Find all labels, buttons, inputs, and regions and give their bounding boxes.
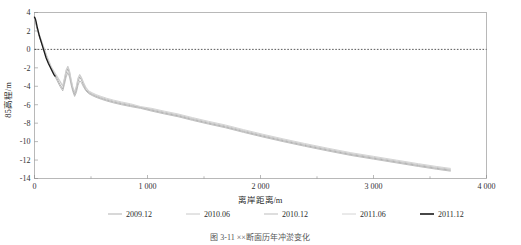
y-tick-label: -12 [20, 156, 31, 165]
y-axis-label: 85高程/m [3, 82, 13, 118]
figure-caption: 图 3-11 ××断面历年冲淤变化 [210, 232, 309, 242]
x-axis-label: 离岸距离/m [238, 195, 283, 205]
y-tick-label: -10 [20, 137, 31, 146]
y-tick-label: 0 [27, 45, 31, 54]
legend-label-2009-12: 2009.12 [126, 210, 152, 219]
y-tick-label: -4 [24, 82, 31, 91]
figure-container: 420-2-4-6-8-10-12-14 01 0002 0003 0004 0… [0, 0, 521, 245]
y-tick-label: 2 [27, 27, 31, 36]
y-tick-label: -14 [20, 174, 31, 183]
y-tick-label: 4 [27, 8, 31, 17]
x-tick-label: 4 000 [478, 182, 496, 191]
figure-background [0, 0, 521, 245]
legend-label-2011-12: 2011.12 [438, 210, 464, 219]
legend-label-2010-06: 2010.06 [204, 210, 230, 219]
x-tick-label: 0 [33, 182, 37, 191]
x-tick-label: 3 000 [365, 182, 383, 191]
y-tick-label: -6 [24, 101, 31, 110]
legend-label-2010-12: 2010.12 [282, 210, 308, 219]
y-tick-label: -2 [24, 64, 31, 73]
x-tick-label: 2 000 [252, 182, 270, 191]
legend-label-2011-06: 2011.06 [360, 210, 386, 219]
chart-svg: 420-2-4-6-8-10-12-14 01 0002 0003 0004 0… [0, 0, 521, 245]
x-tick-label: 1 000 [139, 182, 157, 191]
y-tick-label: -8 [24, 119, 31, 128]
